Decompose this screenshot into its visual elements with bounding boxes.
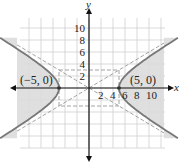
svg-text:8: 8 [134, 89, 140, 101]
svg-text:6: 6 [122, 89, 128, 101]
y-axis-label: y [85, 0, 91, 10]
vertex-label-left: (−5, 0) [20, 73, 53, 87]
hyperbola-graph: 246810246810 x y (−5, 0) (5, 0) [0, 0, 182, 164]
x-axis-label: x [173, 81, 179, 93]
svg-text:2: 2 [80, 70, 86, 82]
svg-text:10: 10 [74, 22, 86, 34]
svg-text:6: 6 [80, 46, 86, 58]
svg-text:8: 8 [80, 34, 86, 46]
svg-text:4: 4 [110, 89, 116, 101]
vertex-label-right: (5, 0) [130, 73, 156, 87]
svg-text:2: 2 [98, 89, 104, 101]
svg-text:10: 10 [146, 89, 158, 101]
svg-text:4: 4 [80, 58, 86, 70]
